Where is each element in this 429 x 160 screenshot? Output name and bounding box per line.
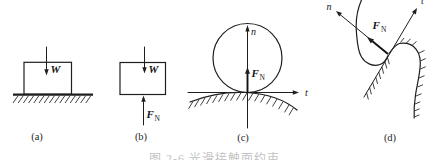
panel-b: W F N (b) (120, 47, 166, 143)
normal-force-arrow-head (141, 96, 145, 102)
normal-axis-label: n (251, 26, 256, 37)
tangent-axis-arrow-head (293, 90, 299, 94)
normal-force-subscript: N (260, 73, 266, 82)
tangent-axis-label: t (421, 0, 424, 6)
panel-d-letter: (d) (384, 132, 397, 144)
support-surface-arc (190, 92, 297, 110)
weight-arrow-head (142, 67, 146, 73)
normal-force-label: F (146, 108, 155, 120)
figure-caption-clipped: 图 2-6 光滑接触面约束 (0, 153, 429, 160)
tangent-axis-label: t (305, 87, 308, 98)
panel-b-letter: (b) (135, 131, 148, 143)
weight-arrow-head (44, 69, 48, 75)
normal-force-arrow-head (245, 67, 250, 74)
right-tooth-outline (389, 43, 420, 118)
normal-axis-label: n (327, 1, 332, 12)
weight-label: W (149, 63, 160, 75)
diagram-canvas: W (a) W F N (b) t n F (0, 0, 429, 160)
block-outline (24, 62, 72, 94)
surface-hatching (189, 93, 294, 115)
normal-force-subscript: N (155, 114, 161, 123)
normal-force-label: F (251, 67, 260, 79)
normal-force-subscript: N (381, 25, 387, 34)
normal-force-arrow-shaft (372, 41, 389, 55)
ground-hatching (13, 96, 91, 103)
panel-a-letter: (a) (31, 131, 43, 143)
normal-axis-arrow-head (245, 25, 249, 31)
panel-a: W (a) (13, 47, 93, 143)
mechanics-figure: W (a) W F N (b) t n F (0, 0, 429, 160)
panel-c-letter: (c) (237, 132, 249, 144)
panel-d: t n F N (d) (327, 0, 426, 144)
panel-c: t n F N (c) (188, 24, 308, 145)
weight-label: W (51, 63, 62, 75)
normal-force-label: F (372, 19, 381, 31)
tangent-axis-arrow-head (412, 8, 417, 14)
